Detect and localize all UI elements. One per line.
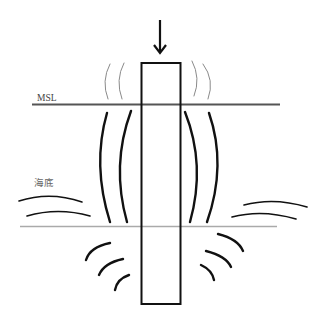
pile <box>142 63 181 304</box>
msl-label: MSL <box>37 93 57 103</box>
pile-vibration-diagram: MSL 海底 <box>0 0 326 324</box>
force-arrow-icon <box>154 20 166 53</box>
airborne-waves <box>105 61 211 99</box>
ground-waves <box>86 234 243 290</box>
waterborne-waves <box>100 111 217 222</box>
seabed-label: 海底 <box>34 177 54 188</box>
seabed-surface-waves <box>19 196 307 219</box>
